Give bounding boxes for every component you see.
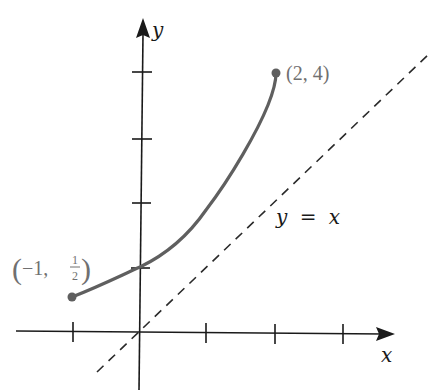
x-axis-label: x <box>381 343 392 367</box>
start-label-open-paren: ( <box>12 252 22 286</box>
start-point <box>68 293 77 302</box>
start-label-x: −1, <box>22 257 48 279</box>
identity-line-label: y = x <box>275 205 340 229</box>
identity-line <box>97 53 430 372</box>
end-point-label: (2, 4) <box>286 62 329 85</box>
x-axis <box>16 322 395 344</box>
start-label-frac-num: 1 <box>72 253 78 267</box>
y-axis-label: y <box>151 18 164 42</box>
y-axis-arrow-icon <box>136 18 150 38</box>
start-label-frac-den: 2 <box>72 269 78 283</box>
exponential-graph: y x y = x (2, 4) ( −1, 1 2 ) <box>0 0 436 392</box>
y-axis <box>131 18 152 390</box>
exponential-curve <box>72 73 276 297</box>
end-point <box>272 69 281 78</box>
start-label-close-paren: ) <box>81 252 91 286</box>
start-point-label: ( −1, 1 2 ) <box>12 252 91 286</box>
